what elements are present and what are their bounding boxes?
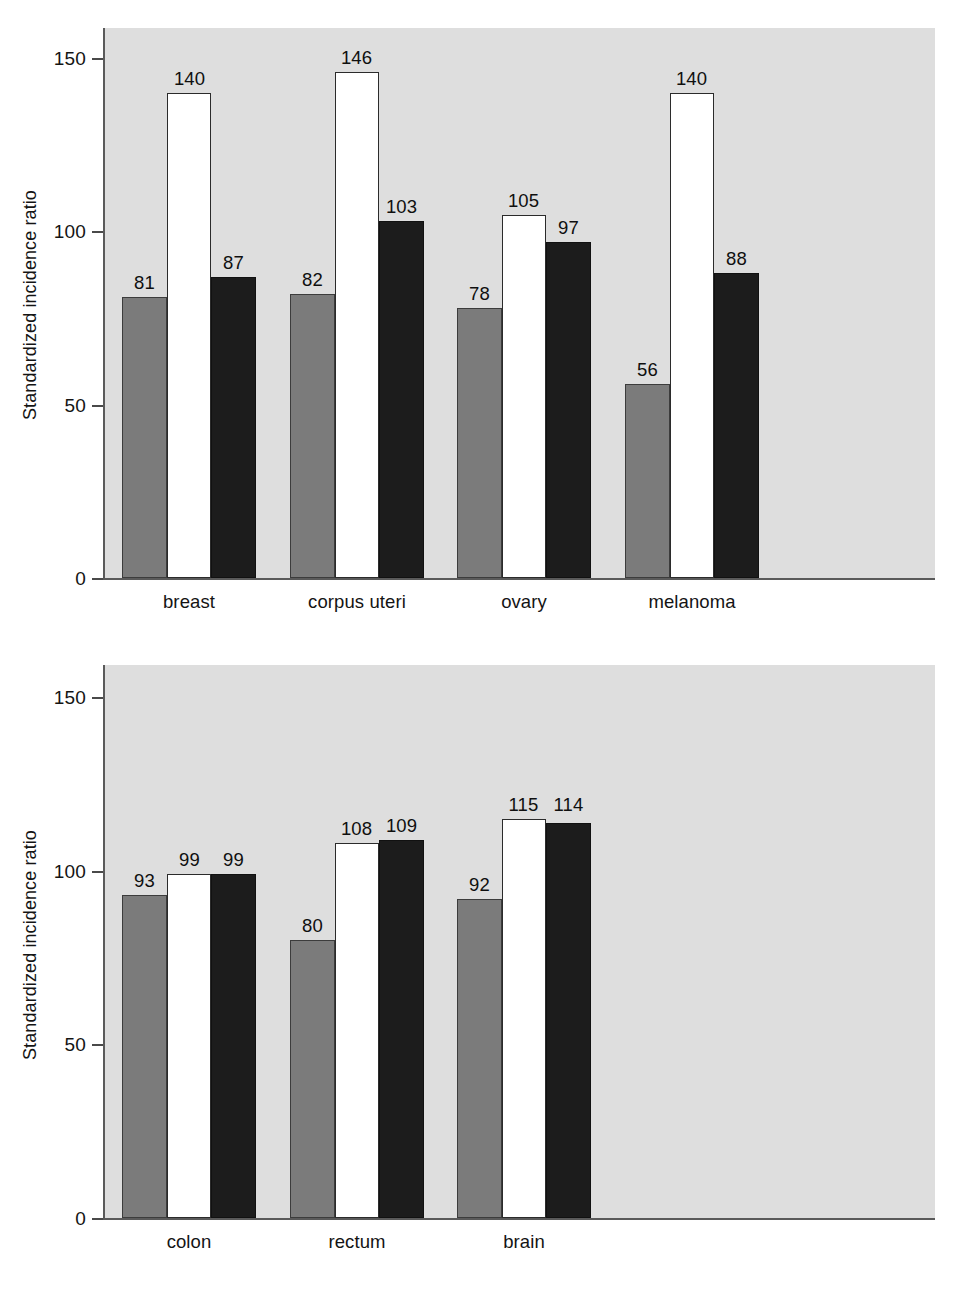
y-tick-label-150-top: 150 bbox=[22, 48, 86, 70]
y-axis-line-top bbox=[103, 28, 105, 579]
x-category-label-breast: breast bbox=[119, 591, 259, 613]
y-tick-0-bottom bbox=[92, 1218, 103, 1220]
bar-corpus-uteri-white bbox=[335, 72, 379, 578]
bar-value-breast-black: 87 bbox=[201, 252, 266, 274]
x-category-label-colon: colon bbox=[119, 1231, 259, 1253]
bar-brain-gray bbox=[457, 899, 502, 1218]
y-tick-0-top bbox=[92, 578, 103, 580]
x-axis-line-bottom bbox=[103, 1218, 935, 1220]
y-tick-label-150-bottom: 150 bbox=[22, 687, 86, 709]
bar-value-rectum-black: 109 bbox=[369, 815, 434, 837]
y-tick-50-bottom bbox=[92, 1044, 103, 1046]
bar-melanoma-gray bbox=[625, 384, 670, 578]
y-tick-label-0-top: 0 bbox=[22, 568, 86, 590]
x-category-label-brain: brain bbox=[454, 1231, 594, 1253]
bar-corpus-uteri-black bbox=[379, 221, 424, 578]
bar-value-corpus-uteri-black: 103 bbox=[369, 196, 434, 218]
bar-colon-black bbox=[211, 874, 256, 1218]
bar-rectum-black bbox=[379, 840, 424, 1218]
bar-value-ovary-black: 97 bbox=[536, 217, 601, 239]
x-category-label-ovary: ovary bbox=[454, 591, 594, 613]
y-tick-150-top bbox=[92, 58, 103, 60]
y-tick-100-bottom bbox=[92, 871, 103, 873]
y-tick-50-top bbox=[92, 405, 103, 407]
bar-value-breast-white: 140 bbox=[157, 68, 222, 90]
bar-value-brain-gray: 92 bbox=[447, 874, 512, 896]
bar-value-melanoma-black: 88 bbox=[704, 248, 769, 270]
bar-breast-black bbox=[211, 277, 256, 578]
y-axis-title-top: Standardized incidence ratio bbox=[20, 190, 41, 420]
y-tick-150-bottom bbox=[92, 697, 103, 699]
bar-breast-white bbox=[167, 93, 211, 578]
bar-ovary-white bbox=[502, 215, 546, 578]
chart-panel-bottom: 150 100 50 0 Standardized incidence rati… bbox=[0, 640, 965, 1289]
bar-corpus-uteri-gray bbox=[290, 294, 335, 578]
bar-rectum-gray bbox=[290, 940, 335, 1218]
bar-colon-white bbox=[167, 874, 211, 1218]
bar-breast-gray bbox=[122, 297, 167, 578]
bar-value-corpus-uteri-gray: 82 bbox=[280, 269, 345, 291]
bar-value-rectum-gray: 80 bbox=[280, 915, 345, 937]
bar-colon-gray bbox=[122, 895, 167, 1218]
bar-value-colon-gray: 93 bbox=[112, 870, 177, 892]
bar-value-breast-gray: 81 bbox=[112, 272, 177, 294]
bar-value-corpus-uteri-white: 146 bbox=[324, 47, 389, 69]
x-category-label-rectum: rectum bbox=[287, 1231, 427, 1253]
x-category-label-melanoma: melanoma bbox=[622, 591, 762, 613]
y-tick-100-top bbox=[92, 231, 103, 233]
bar-value-colon-black: 99 bbox=[201, 849, 266, 871]
y-axis-title-bottom: Standardized incidence ratio bbox=[20, 830, 41, 1060]
y-axis-line-bottom bbox=[103, 665, 105, 1219]
bar-value-ovary-white: 105 bbox=[491, 190, 556, 212]
bar-ovary-black bbox=[546, 242, 591, 578]
bar-melanoma-black bbox=[714, 273, 759, 578]
bar-value-brain-black: 114 bbox=[536, 794, 601, 816]
bar-value-melanoma-gray: 56 bbox=[615, 359, 680, 381]
x-axis-line-top bbox=[103, 578, 935, 580]
bar-melanoma-white bbox=[670, 93, 714, 578]
bar-value-melanoma-white: 140 bbox=[659, 68, 724, 90]
chart-panel-top: 150 100 50 0 Standardized incidence rati… bbox=[0, 0, 965, 640]
bar-rectum-white bbox=[335, 843, 379, 1218]
bar-value-ovary-gray: 78 bbox=[447, 283, 512, 305]
x-category-label-corpus-uteri: corpus uteri bbox=[287, 591, 427, 613]
y-tick-label-0-bottom: 0 bbox=[22, 1208, 86, 1230]
bar-brain-black bbox=[546, 823, 591, 1218]
bar-ovary-gray bbox=[457, 308, 502, 578]
